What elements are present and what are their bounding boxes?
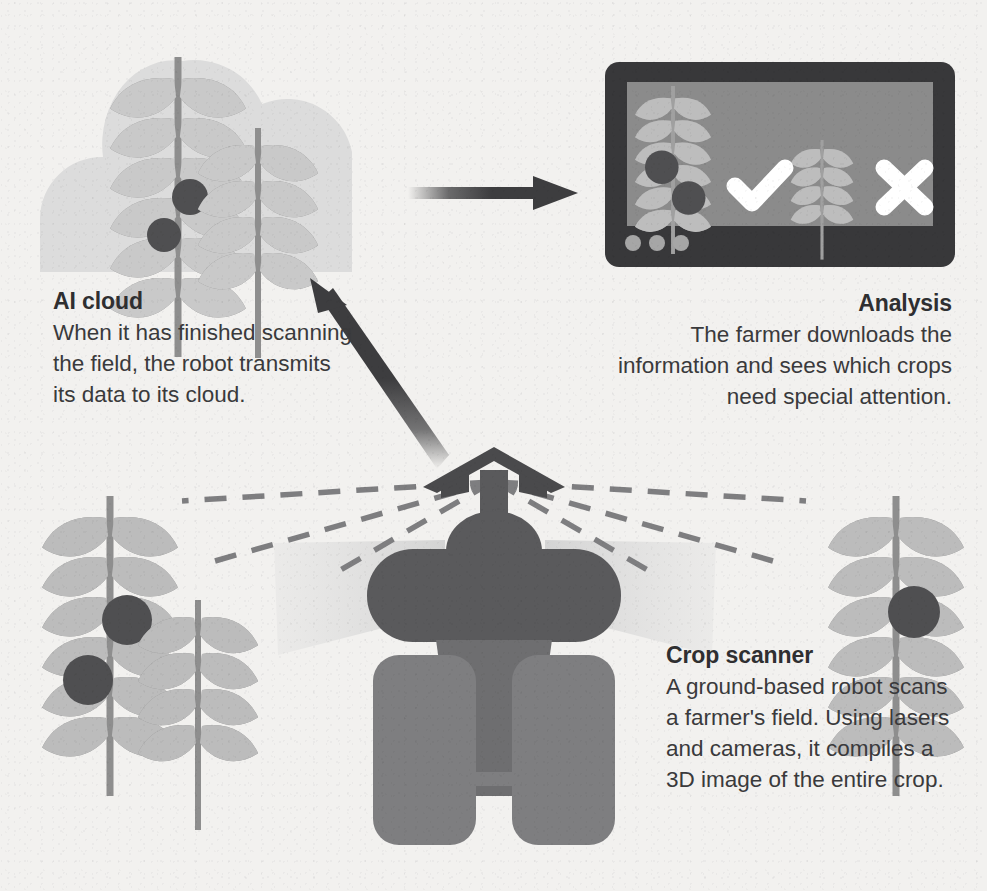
section-crop-scanner: Crop scanner A ground-based robot scans … <box>666 640 966 795</box>
analysis-body: The farmer downloads the information and… <box>617 319 952 412</box>
crop-scanner-body: A ground-based robot scans a farmer's fi… <box>666 671 966 795</box>
robot-wheel-right <box>512 655 615 845</box>
field-plant-left-short <box>134 600 261 830</box>
disease-dot <box>888 586 940 638</box>
disease-dot <box>672 181 706 215</box>
section-ai-cloud: AI cloud When it has finished scanning t… <box>53 286 353 410</box>
robot-wheel-left <box>373 655 476 845</box>
disease-dot <box>147 218 181 252</box>
disease-dot <box>63 655 113 705</box>
analysis-heading: Analysis <box>617 288 952 318</box>
section-analysis: Analysis The farmer downloads the inform… <box>617 288 952 412</box>
crop-scanner-heading: Crop scanner <box>666 640 966 670</box>
disease-dot <box>645 150 679 184</box>
cloud-to-screen-arrow <box>408 176 578 210</box>
monitor-screen-icon <box>605 62 955 267</box>
ai-cloud-body: When it has finished scanning the field,… <box>53 317 353 410</box>
ai-cloud-heading: AI cloud <box>53 286 353 316</box>
screen-indicator-dots <box>625 235 689 251</box>
